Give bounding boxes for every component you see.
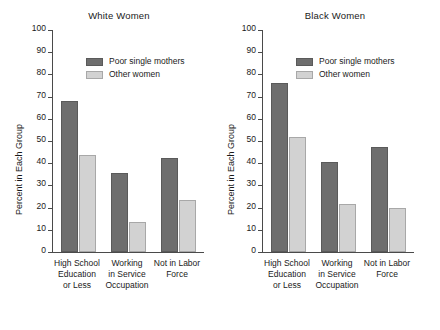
bar-other-women [179, 200, 196, 252]
bar-poor-single-mothers [161, 158, 178, 252]
tick-label: 0 [251, 245, 256, 255]
tick-label: 30 [247, 178, 256, 188]
legend-swatch-icon [86, 58, 103, 66]
tick-mark [258, 74, 262, 75]
bar-other-women [389, 208, 406, 252]
tick-label: 0 [41, 245, 46, 255]
panel-title: White Women [0, 10, 220, 21]
x-axis-category-label: Not in LaborForce [144, 258, 210, 280]
tick-mark [48, 163, 52, 164]
legend-item-poor-single-mothers: Poor single mothers [296, 56, 395, 67]
tick-mark [48, 185, 52, 186]
tick-label: 90 [37, 45, 46, 55]
tick-mark [258, 119, 262, 120]
tick-label: 100 [32, 23, 46, 33]
y-axis-line [262, 30, 263, 252]
tick-mark [258, 141, 262, 142]
tick-label: 10 [37, 223, 46, 233]
y-axis-label: Percent in Each Group [226, 75, 236, 215]
chart-panel-white-women: White Women Percent in Each Group 010203… [0, 0, 220, 330]
tick-label: 30 [37, 178, 46, 188]
legend-item-other-women: Other women [86, 69, 185, 80]
x-axis-category-label: Not in LaborForce [354, 258, 420, 280]
tick-mark [48, 30, 52, 31]
tick-mark [48, 119, 52, 120]
tick-mark [48, 52, 52, 53]
bar-other-women [79, 155, 96, 252]
bar-poor-single-mothers [321, 162, 338, 252]
tick-mark [258, 208, 262, 209]
tick-label: 80 [37, 67, 46, 77]
tick-mark [258, 97, 262, 98]
tick-label: 60 [247, 112, 256, 122]
y-axis-label: Percent in Each Group [14, 75, 24, 215]
tick-label: 70 [37, 90, 46, 100]
tick-mark [48, 230, 52, 231]
x-axis-line [52, 252, 204, 253]
tick-mark [258, 163, 262, 164]
legend-item-poor-single-mothers: Poor single mothers [86, 56, 185, 67]
legend-label: Poor single mothers [109, 56, 185, 67]
legend-label: Other women [319, 69, 370, 80]
tick-mark [258, 30, 262, 31]
tick-mark [258, 52, 262, 53]
tick-mark [48, 97, 52, 98]
category-label-line: Not in Labor [354, 258, 420, 269]
category-label-line: Not in Labor [144, 258, 210, 269]
tick-label: 10 [247, 223, 256, 233]
figure: White Women Percent in Each Group 010203… [0, 0, 440, 330]
category-label-line: Force [144, 269, 210, 280]
y-axis-line [52, 30, 53, 252]
category-label-line: Occupation [304, 280, 370, 291]
legend-label: Other women [109, 69, 160, 80]
panel-title: Black Women [220, 10, 440, 21]
tick-label: 40 [37, 156, 46, 166]
bar-poor-single-mothers [371, 147, 388, 252]
legend-item-other-women: Other women [296, 69, 395, 80]
tick-mark [48, 74, 52, 75]
bar-other-women [339, 204, 356, 252]
x-axis-line [262, 252, 414, 253]
tick-mark [258, 230, 262, 231]
bar-poor-single-mothers [61, 101, 78, 252]
bar-poor-single-mothers [271, 83, 288, 252]
tick-label: 50 [37, 134, 46, 144]
bar-other-women [289, 137, 306, 252]
category-label-line: Force [354, 269, 420, 280]
tick-mark [258, 252, 262, 253]
legend: Poor single mothers Other women [296, 56, 395, 82]
tick-label: 50 [247, 134, 256, 144]
tick-label: 90 [247, 45, 256, 55]
legend-swatch-icon [86, 71, 103, 79]
tick-label: 70 [247, 90, 256, 100]
tick-mark [48, 252, 52, 253]
bar-other-women [129, 222, 146, 252]
tick-label: 40 [247, 156, 256, 166]
legend-swatch-icon [296, 71, 313, 79]
tick-label: 80 [247, 67, 256, 77]
tick-mark [48, 141, 52, 142]
category-label-line: Occupation [94, 280, 160, 291]
bar-poor-single-mothers [111, 173, 128, 252]
tick-label: 60 [37, 112, 46, 122]
chart-panel-black-women: Black Women Percent in Each Group 010203… [220, 0, 440, 330]
tick-mark [48, 208, 52, 209]
tick-label: 20 [37, 201, 46, 211]
tick-mark [258, 185, 262, 186]
tick-label: 20 [247, 201, 256, 211]
tick-label: 100 [242, 23, 256, 33]
legend-label: Poor single mothers [319, 56, 395, 67]
legend-swatch-icon [296, 58, 313, 66]
legend: Poor single mothers Other women [86, 56, 185, 82]
